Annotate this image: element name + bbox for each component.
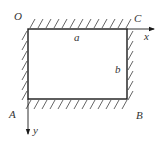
y-axis-label: y bbox=[32, 124, 38, 136]
top-support-hatching bbox=[30, 19, 131, 28]
x-axis-label: x bbox=[143, 30, 149, 42]
corner-label-a: A bbox=[8, 108, 16, 120]
plate-diagram: O C A B a b x y bbox=[0, 0, 162, 144]
bottom-support-hatching bbox=[26, 100, 127, 109]
left-support-hatching bbox=[22, 31, 27, 100]
corner-label-b: B bbox=[136, 109, 143, 121]
right-support-hatching bbox=[128, 31, 133, 100]
width-label-a: a bbox=[74, 31, 80, 43]
corner-label-c: C bbox=[134, 12, 142, 24]
height-label-b: b bbox=[115, 63, 121, 75]
corner-label-o: O bbox=[14, 10, 22, 22]
